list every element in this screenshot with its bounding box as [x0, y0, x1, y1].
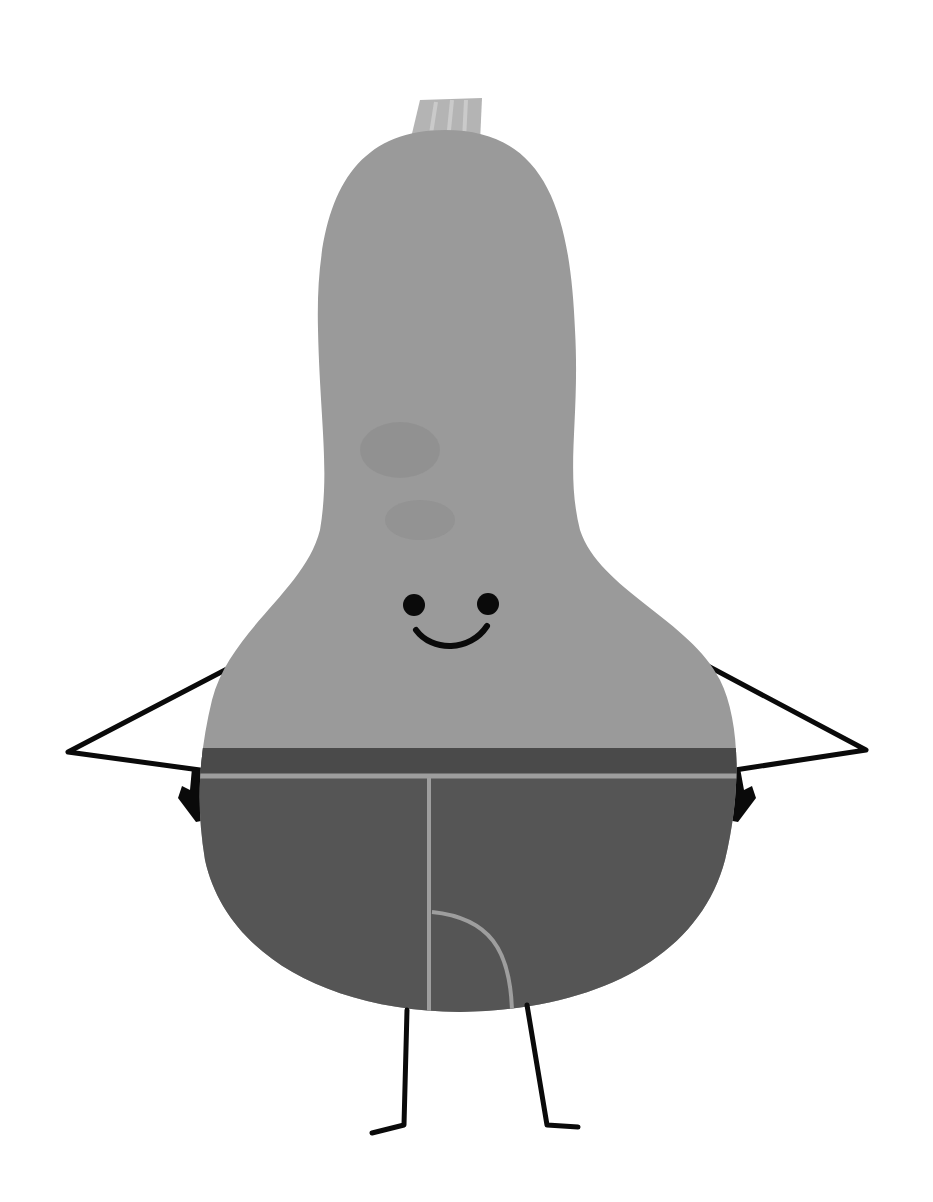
underwear [180, 748, 760, 1028]
left-leg [372, 1010, 407, 1133]
right-leg [527, 1005, 578, 1127]
right-eye [477, 593, 499, 615]
waistband [180, 748, 760, 774]
legs [372, 1005, 578, 1133]
squash-body [180, 120, 760, 1028]
illustration: Smiling butternut squash in underwear [0, 0, 933, 1202]
left-eye [403, 594, 425, 616]
